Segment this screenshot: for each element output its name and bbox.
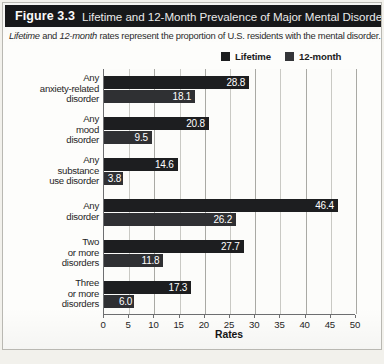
category-label-line: use disorder xyxy=(3,176,99,187)
bar-lifetime: 27.7 xyxy=(104,240,244,253)
y-axis-category-label: Anysubstanceuse disorder xyxy=(3,155,99,187)
category-label-line: disorder xyxy=(3,94,99,105)
bar-value-label: 17.3 xyxy=(169,282,192,293)
x-axis-tick-mark xyxy=(330,315,331,318)
bar-value-label: 26.2 xyxy=(213,214,236,225)
bar-12-month: 9.5 xyxy=(104,131,152,144)
gridline xyxy=(154,69,155,314)
y-axis-category-label: Twoor moredisorders xyxy=(3,237,99,269)
category-label-line: disorders xyxy=(3,299,99,310)
gridline xyxy=(205,69,206,314)
x-axis-tick-label: 10 xyxy=(148,319,158,330)
y-axis-category-label: Anydisorder xyxy=(3,201,99,222)
x-axis-tick-mark xyxy=(305,315,306,318)
bar-lifetime: 46.4 xyxy=(104,199,338,212)
x-axis-tick-label: 25 xyxy=(224,319,234,330)
bar-value-label: 14.6 xyxy=(155,159,178,170)
bar-value-label: 28.8 xyxy=(226,77,249,88)
bar-value-label: 46.4 xyxy=(315,200,338,211)
x-axis-tick-mark xyxy=(153,315,154,318)
gridline xyxy=(306,69,307,314)
x-axis-tick-mark xyxy=(254,315,255,318)
bar-12-month: 11.8 xyxy=(104,254,163,267)
x-axis-tick-mark xyxy=(229,315,230,318)
bar-12-month: 26.2 xyxy=(104,213,236,226)
x-axis-tick-label: 35 xyxy=(274,319,284,330)
x-axis-tick-label: 5 xyxy=(126,319,131,330)
x-axis-tick-label: 30 xyxy=(249,319,259,330)
x-axis-tick-mark xyxy=(103,315,104,318)
bar-value-label: 20.8 xyxy=(186,118,209,129)
x-axis-tick-label: 40 xyxy=(299,319,309,330)
gridline xyxy=(331,69,332,314)
bar-value-label: 18.1 xyxy=(173,91,196,102)
y-axis-category-label: Anymooddisorder xyxy=(3,114,99,146)
bar-value-label: 6.0 xyxy=(119,296,134,307)
x-axis-tick-mark xyxy=(204,315,205,318)
y-axis-category-label: Anyanxiety-relateddisorder xyxy=(3,73,99,105)
x-axis-tick-label: 0 xyxy=(100,319,105,330)
bar-value-label: 3.8 xyxy=(108,173,123,184)
category-label-line: disorder xyxy=(3,212,99,223)
gridline xyxy=(255,69,256,314)
bar-lifetime: 17.3 xyxy=(104,281,191,294)
plot-area: 28.818.120.89.514.63.846.426.227.711.817… xyxy=(103,69,355,315)
x-axis-tick-label: 45 xyxy=(325,319,335,330)
plot-wrapper: 28.818.120.89.514.63.846.426.227.711.817… xyxy=(3,3,382,350)
x-axis-tick-mark xyxy=(355,315,356,318)
x-axis-tick-label: 15 xyxy=(173,319,183,330)
bar-value-label: 11.8 xyxy=(142,255,164,266)
bar-value-label: 9.5 xyxy=(135,132,152,143)
category-label-line: disorders xyxy=(3,258,99,269)
gridline xyxy=(129,69,130,314)
bar-12-month: 3.8 xyxy=(104,172,123,185)
x-axis-tick-mark xyxy=(128,315,129,318)
x-axis-title: Rates xyxy=(103,329,355,340)
x-axis-tick-label: 50 xyxy=(350,319,360,330)
bar-12-month: 6.0 xyxy=(104,295,134,308)
category-label-line: disorder xyxy=(3,135,99,146)
bar-lifetime: 14.6 xyxy=(104,158,178,171)
bar-12-month: 18.1 xyxy=(104,90,195,103)
figure-card: Figure 3.3 Lifetime and 12-Month Prevale… xyxy=(2,2,382,350)
bar-lifetime: 28.8 xyxy=(104,76,249,89)
x-axis-tick-mark xyxy=(179,315,180,318)
x-axis-tick-mark xyxy=(279,315,280,318)
x-axis-tick-label: 20 xyxy=(199,319,209,330)
gridline xyxy=(180,69,181,314)
gridline xyxy=(230,69,231,314)
bar-value-label: 27.7 xyxy=(221,241,244,252)
gridline xyxy=(356,69,357,314)
bar-lifetime: 20.8 xyxy=(104,117,209,130)
y-axis-category-label: Threeor moredisorders xyxy=(3,278,99,310)
gridline xyxy=(280,69,281,314)
